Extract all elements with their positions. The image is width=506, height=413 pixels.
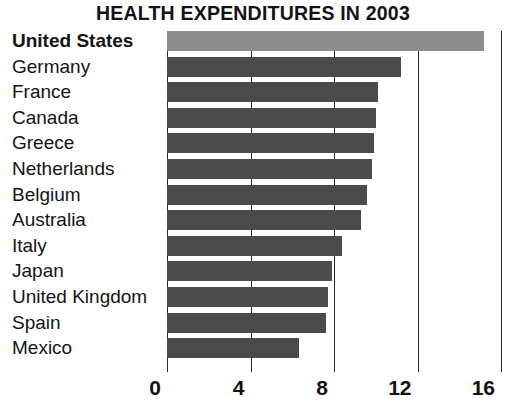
category-label-germany: Germany (12, 57, 90, 77)
gridline-16 (501, 31, 502, 372)
bar-row (167, 287, 328, 307)
bar-netherlands (167, 159, 372, 179)
bar-united-kingdom (167, 287, 328, 307)
category-label-france: France (12, 82, 71, 102)
bar-mexico (167, 338, 299, 358)
bar-row (167, 108, 376, 128)
bar-italy (167, 236, 342, 256)
bar-greece (167, 133, 374, 153)
category-label-greece: Greece (12, 133, 74, 153)
bar-row (167, 261, 332, 281)
bar-row (167, 31, 484, 51)
bar-united-states (167, 31, 484, 51)
bar-germany (167, 57, 401, 77)
category-label-netherlands: Netherlands (12, 159, 114, 179)
plot-area (167, 31, 501, 372)
category-label-united-kingdom: United Kingdom (12, 287, 147, 307)
x-tick-12: 12 (374, 376, 412, 400)
bar-row (167, 210, 361, 230)
category-label-japan: Japan (12, 261, 64, 281)
category-label-australia: Australia (12, 210, 86, 230)
bar-france (167, 82, 378, 102)
bar-belgium (167, 185, 367, 205)
category-label-canada: Canada (12, 108, 79, 128)
bar-canada (167, 108, 376, 128)
category-label-mexico: Mexico (12, 338, 72, 358)
chart-container: HEALTH EXPENDITURES IN 2003 United State… (0, 0, 506, 413)
bar-row (167, 185, 367, 205)
gridline-12 (418, 31, 419, 372)
x-tick-0: 0 (123, 376, 161, 400)
bar-row (167, 57, 401, 77)
x-tick-8: 8 (290, 376, 328, 400)
category-label-spain: Spain (12, 313, 61, 333)
x-tick-16: 16 (457, 376, 495, 400)
category-label-italy: Italy (12, 236, 47, 256)
bar-row (167, 159, 372, 179)
bar-row (167, 82, 378, 102)
bar-row (167, 338, 299, 358)
x-tick-4: 4 (207, 376, 245, 400)
bar-australia (167, 210, 361, 230)
category-label-united-states: United States (12, 31, 133, 51)
bar-row (167, 133, 374, 153)
bar-japan (167, 261, 332, 281)
bar-row (167, 313, 326, 333)
bar-row (167, 236, 342, 256)
chart-title: HEALTH EXPENDITURES IN 2003 (0, 2, 506, 25)
category-label-belgium: Belgium (12, 185, 81, 205)
bar-spain (167, 313, 326, 333)
